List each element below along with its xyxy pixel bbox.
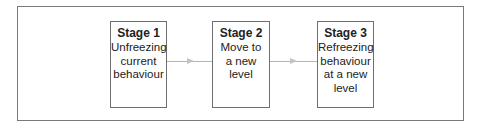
stage-3-line: Refreezing [318,41,373,55]
stage-1-title: Stage 1 [111,26,166,40]
stage-1-box: Stage 1 Unfreezing current behaviour [110,21,167,108]
stage-2-box: Stage 2 Move to a new level [212,21,270,108]
stage-1-line: current [111,55,166,69]
stage-2-line: level [213,68,269,82]
stage-2-title: Stage 2 [213,26,269,40]
stage-3-line: at a new [318,68,373,82]
stage-3-title: Stage 3 [318,26,373,40]
arrow-stage2-to-stage3 [270,61,317,62]
arrow-head-icon [187,58,194,64]
arrow-stage1-to-stage2 [167,61,212,62]
stage-3-box: Stage 3 Refreezing behaviour at a new le… [317,21,374,108]
stage-3-line: behaviour [318,55,373,69]
stage-3-line: level [318,82,373,96]
stage-1-line: behaviour [111,68,166,82]
stage-2-line: Move to [213,41,269,55]
stage-1-line: Unfreezing [111,41,166,55]
arrow-head-icon [290,58,297,64]
stage-2-line: a new [213,55,269,69]
